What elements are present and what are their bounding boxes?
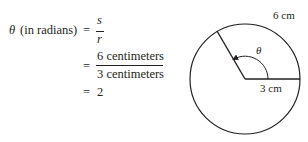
circle-diagram <box>0 0 308 142</box>
angled-radius <box>217 31 245 79</box>
radius-length-label: 3 cm <box>260 83 282 94</box>
arc-length-label: 6 cm <box>273 10 295 21</box>
angle-theta-label: θ <box>256 45 261 56</box>
